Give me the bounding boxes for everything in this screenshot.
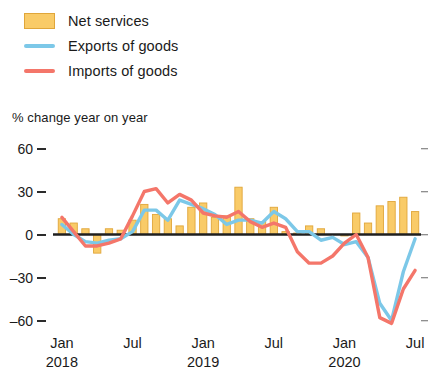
bar bbox=[176, 226, 183, 235]
x-axis-tick-5: Jul bbox=[406, 334, 425, 353]
bar bbox=[411, 212, 418, 235]
x-axis-tick-2: Jan2019 bbox=[187, 334, 219, 372]
x-axis-tick-1: Jul bbox=[123, 334, 142, 353]
bar bbox=[364, 223, 371, 234]
bar bbox=[376, 206, 383, 235]
bar bbox=[188, 207, 195, 234]
x-axis-tick-0: Jan2018 bbox=[46, 334, 78, 372]
x-axis-tick-month: Jan bbox=[191, 335, 214, 351]
plot-area bbox=[0, 0, 430, 376]
bar bbox=[400, 197, 407, 234]
bar bbox=[388, 202, 395, 235]
x-axis-tick-month: Jul bbox=[123, 335, 142, 351]
bar bbox=[152, 214, 159, 234]
x-axis-tick-month: Jan bbox=[50, 335, 73, 351]
x-axis-tick-month: Jan bbox=[333, 335, 356, 351]
x-axis-tick-4: Jan2020 bbox=[328, 334, 360, 372]
x-axis-tick-month: Jul bbox=[406, 335, 425, 351]
x-axis-tick-year: 2019 bbox=[187, 353, 219, 372]
bar bbox=[353, 213, 360, 235]
x-axis-tick-3: Jul bbox=[265, 334, 284, 353]
x-axis-tick-year: 2018 bbox=[46, 353, 78, 372]
x-axis-tick-month: Jul bbox=[265, 335, 284, 351]
chart-container: Net services Exports of goods Imports of… bbox=[0, 0, 430, 376]
x-axis-tick-year: 2020 bbox=[328, 353, 360, 372]
bar bbox=[211, 217, 218, 234]
